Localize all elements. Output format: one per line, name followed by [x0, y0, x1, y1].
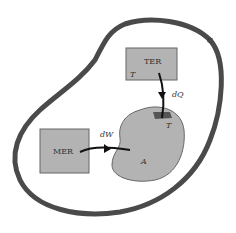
heat-label: dQ	[172, 90, 184, 99]
work-arrowhead	[104, 144, 111, 153]
heat-arrowhead	[158, 92, 166, 99]
contact-temp-label: T	[166, 121, 171, 130]
work-label: dW	[100, 130, 113, 139]
system-a	[112, 107, 184, 181]
ter-label: TER	[144, 57, 161, 66]
boundary-c	[15, 20, 221, 214]
system-label: A	[141, 157, 147, 166]
diagram-canvas	[0, 0, 236, 233]
boundary-label: C	[207, 36, 213, 45]
ter-temp-label: T	[130, 70, 135, 79]
mer-label: MER	[53, 147, 73, 156]
